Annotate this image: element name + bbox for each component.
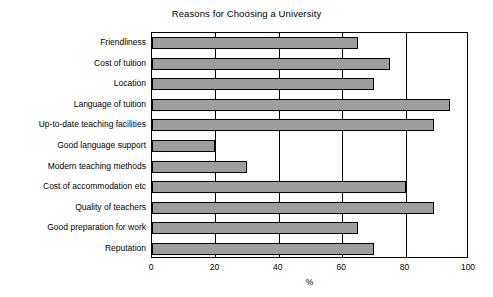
y-axis-tick-label: Reputation	[0, 242, 146, 254]
y-axis-tick-label: Good language support	[0, 139, 146, 151]
x-axis-tick-label: 20	[199, 262, 229, 272]
y-axis-tick-label: Up-to-date teaching facilities	[0, 118, 146, 130]
bar-row	[152, 140, 469, 152]
y-axis-tick-label: Quality of teachers	[0, 201, 146, 213]
bar-row	[152, 243, 469, 255]
bar	[152, 119, 434, 131]
bar-row	[152, 161, 469, 173]
chart-title: Reasons for Choosing a University	[0, 8, 493, 19]
bar-row	[152, 37, 469, 49]
x-axis-tick-label: 80	[390, 262, 420, 272]
bar-row	[152, 202, 469, 214]
x-axis-tick-label: 60	[326, 262, 356, 272]
bar	[152, 161, 247, 173]
bar	[152, 243, 374, 255]
bar	[152, 58, 390, 70]
y-axis-tick-label: Cost of tuition	[0, 57, 146, 69]
x-axis-tick-label: 0	[136, 262, 166, 272]
x-axis-tick-label: 100	[453, 262, 483, 272]
y-axis-tick-label: Friendliness	[0, 36, 146, 48]
y-axis-tick-label: Cost of accommodation etc	[0, 180, 146, 192]
bar-row	[152, 58, 469, 70]
bar-row	[152, 222, 469, 234]
bar	[152, 140, 215, 152]
bar	[152, 181, 406, 193]
bar	[152, 37, 358, 49]
y-axis-tick-label: Language of tuition	[0, 98, 146, 110]
plot-area	[151, 32, 468, 258]
x-axis-tick-label: 40	[263, 262, 293, 272]
y-axis-tick-label: Good preparation for work	[0, 221, 146, 233]
bar	[152, 222, 358, 234]
bar	[152, 202, 434, 214]
bar	[152, 78, 374, 90]
bar-row	[152, 78, 469, 90]
y-axis-tick-label: Modern teaching methods	[0, 160, 146, 172]
bar-row	[152, 99, 469, 111]
x-axis-title: %	[151, 277, 468, 287]
bar-row	[152, 119, 469, 131]
bar-row	[152, 181, 469, 193]
bar	[152, 99, 450, 111]
bar-chart: Reasons for Choosing a University Friend…	[0, 0, 493, 297]
y-axis-tick-label: Location	[0, 77, 146, 89]
